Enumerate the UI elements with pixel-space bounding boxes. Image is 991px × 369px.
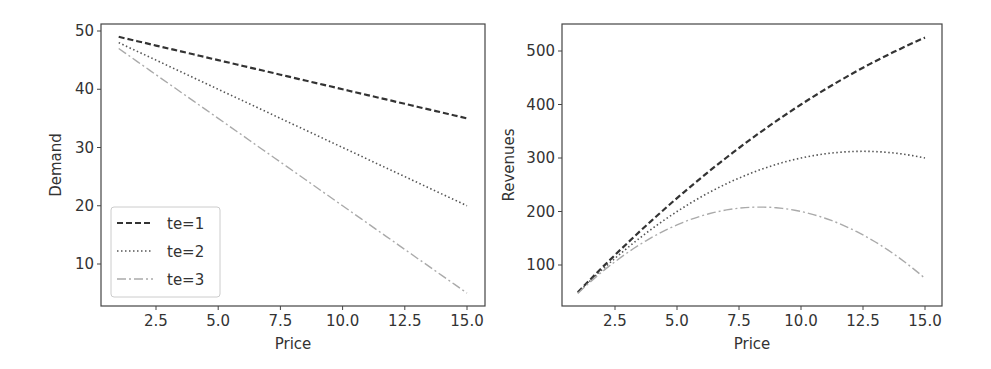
y-tick-label: 100 — [526, 256, 555, 274]
figure: 2.55.07.510.012.515.01020304050PriceDema… — [0, 0, 991, 369]
y-tick-label: 300 — [526, 149, 555, 167]
x-tick-label: 15.0 — [908, 312, 941, 330]
y-axis-label: Demand — [47, 133, 65, 197]
x-axis-label: Price — [275, 335, 312, 353]
x-tick-label: 15.0 — [450, 312, 483, 330]
series-line-te=1 — [119, 37, 467, 119]
x-tick-label: 2.5 — [144, 312, 168, 330]
chart-revenues: 2.55.07.510.012.515.0100200300400500Pric… — [500, 24, 942, 353]
x-tick-label: 7.5 — [268, 312, 292, 330]
series-line-te=1 — [578, 38, 925, 293]
y-tick-label: 200 — [526, 203, 555, 221]
y-tick-label: 40 — [75, 80, 94, 98]
legend-label: te=1 — [167, 215, 204, 233]
y-axis-label: Revenues — [500, 128, 518, 201]
x-tick-label: 12.5 — [388, 312, 421, 330]
legend: te=1te=2te=3 — [111, 207, 220, 297]
x-tick-label: 10.0 — [326, 312, 359, 330]
x-tick-label: 5.0 — [665, 312, 689, 330]
series-line-te=3 — [578, 207, 925, 293]
x-tick-label: 5.0 — [206, 312, 230, 330]
y-tick-label: 500 — [526, 42, 555, 60]
y-tick-label: 10 — [75, 255, 94, 273]
x-axis-label: Price — [734, 335, 771, 353]
legend-label: te=2 — [167, 243, 204, 261]
series-line-te=2 — [119, 43, 467, 206]
x-tick-label: 10.0 — [784, 312, 817, 330]
axes-frame — [562, 24, 942, 306]
y-tick-label: 400 — [526, 96, 555, 114]
x-tick-label: 2.5 — [603, 312, 627, 330]
y-tick-label: 20 — [75, 197, 94, 215]
legend-label: te=3 — [167, 271, 204, 289]
x-tick-label: 12.5 — [846, 312, 879, 330]
chart-demand: 2.55.07.510.012.515.01020304050PriceDema… — [47, 22, 485, 353]
y-tick-label: 50 — [75, 22, 94, 40]
y-tick-label: 30 — [75, 139, 94, 157]
series-line-te=2 — [578, 151, 925, 292]
x-tick-label: 7.5 — [727, 312, 751, 330]
